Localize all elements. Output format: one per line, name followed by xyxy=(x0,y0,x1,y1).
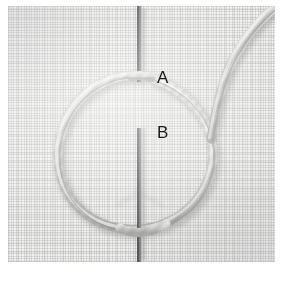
label-b: B xyxy=(157,124,168,141)
thread-loop xyxy=(57,74,215,232)
label-a: A xyxy=(157,69,168,86)
photograph-plate: A B xyxy=(8,6,275,262)
sewing-needle xyxy=(137,6,146,262)
thread-over-needle xyxy=(132,76,151,78)
cropped-caption xyxy=(10,272,170,284)
stitch-illustration xyxy=(8,6,275,262)
